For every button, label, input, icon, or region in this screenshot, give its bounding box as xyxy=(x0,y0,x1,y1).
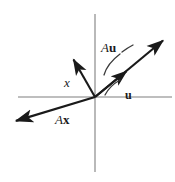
label-x: x xyxy=(64,76,70,89)
label-x-text: x xyxy=(64,75,70,90)
label-u-text: u xyxy=(125,88,132,102)
label-au-operator: A xyxy=(101,40,109,55)
vector-group xyxy=(16,41,163,121)
label-ax-operator: A xyxy=(55,112,63,127)
label-ax-vector: x xyxy=(63,112,70,127)
label-ax: Ax xyxy=(55,113,69,126)
vector-x xyxy=(74,60,96,98)
au-pointer-tail-icon xyxy=(122,45,133,52)
axis-group xyxy=(18,14,172,172)
label-u: u xyxy=(125,89,132,101)
label-au-vector: u xyxy=(109,40,116,55)
label-au: Au xyxy=(101,41,116,54)
diagram-canvas xyxy=(0,0,175,182)
au-pointer-icon xyxy=(104,54,120,75)
vector-diagram: x u Au Ax xyxy=(0,0,175,182)
